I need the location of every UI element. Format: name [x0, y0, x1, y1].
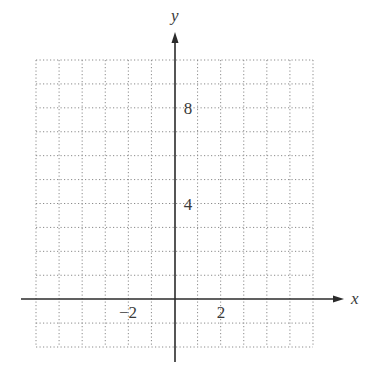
x-tick-label-2: 2 [217, 303, 226, 322]
x-axis-arrow-icon [333, 296, 344, 303]
y-tick-label-8: 8 [184, 99, 193, 118]
y-axis-label: y [169, 6, 179, 25]
y-tick-label-4: 4 [184, 195, 193, 214]
x-tick-label-neg2: −2 [119, 303, 137, 322]
coordinate-plane: x y −2 2 4 8 [0, 0, 389, 371]
y-axis-arrow-icon [172, 32, 179, 43]
x-axis-label: x [350, 289, 359, 308]
